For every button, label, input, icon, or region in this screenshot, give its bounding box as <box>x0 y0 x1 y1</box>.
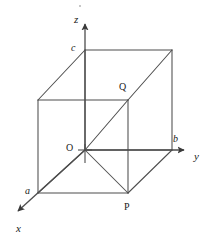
stray-speck <box>79 5 81 7</box>
coordinate-axes <box>18 24 184 211</box>
x-axis-label: x <box>16 223 21 234</box>
diagonal-O-to-Q <box>85 100 128 150</box>
axis-point-b-label: b <box>173 134 178 144</box>
z-axis-label: z <box>74 14 78 25</box>
origin-marker <box>78 144 92 163</box>
axis-point-c-label: c <box>71 43 75 53</box>
point-p-label: P <box>124 202 130 212</box>
x-axis-line <box>18 150 85 211</box>
y-axis-label: y <box>194 151 199 162</box>
edge-fronttopleft-to-c <box>38 50 85 100</box>
segment-O-to-P <box>85 150 128 193</box>
edge-Q-to-backtopright <box>128 50 172 100</box>
cube-coordinate-diagram: z y x O P Q a b c <box>0 0 205 238</box>
diagram-canvas <box>0 0 205 238</box>
edge-P-to-b <box>128 150 172 193</box>
axis-point-a-label: a <box>25 186 30 196</box>
point-q-label: Q <box>119 82 126 92</box>
origin-label: O <box>66 143 73 153</box>
cube-wireframe <box>38 50 172 193</box>
